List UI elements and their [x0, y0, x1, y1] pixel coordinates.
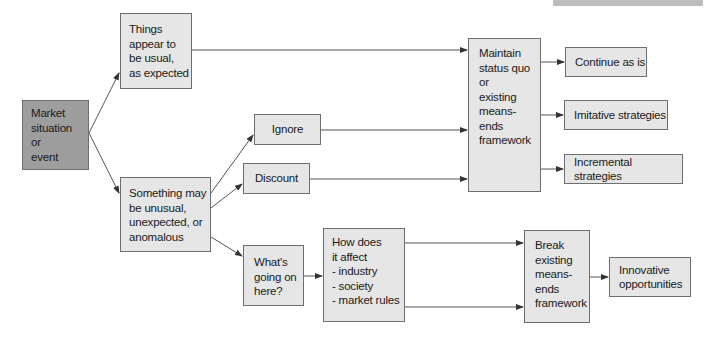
node-label: Break existing means- ends framework — [535, 238, 589, 311]
node-imitative-strategies: Imitative strategies — [564, 100, 668, 130]
node-maintain-status-quo: Maintain status quo or existing means-en… — [468, 38, 541, 192]
node-incremental-strategies: Incremental strategies — [564, 154, 683, 184]
node-label: Incremental strategies — [574, 155, 682, 184]
node-innovative-opportunities: Innovative opportunities — [609, 257, 691, 297]
node-label: Ignore — [272, 122, 303, 137]
node-label: Continue as is — [575, 55, 645, 70]
node-continue-as-is: Continue as is — [565, 47, 647, 77]
node-market-situation: Market situation or event — [22, 100, 89, 170]
edge-market-unusual — [89, 133, 119, 193]
edge-unusual-discount — [211, 184, 242, 208]
node-break-framework: Break existing means- ends framework — [524, 230, 590, 323]
node-label: Things appear to be usual, as expected — [129, 22, 191, 80]
node-things-usual: Things appear to be usual, as expected — [120, 13, 192, 89]
node-label: What's going on here? — [254, 255, 303, 299]
node-label: How does it affect - industry - society … — [332, 235, 404, 308]
edge-market-usual — [89, 73, 119, 133]
node-label: Innovative opportunities — [619, 263, 682, 292]
node-label: Market situation or event — [31, 106, 88, 164]
node-label: Something may be unusual, unexpected, or… — [129, 186, 210, 244]
node-discount: Discount — [243, 163, 310, 194]
node-label: Imitative strategies — [574, 108, 666, 123]
edge-unusual-whats — [211, 237, 242, 256]
node-how-does-it-affect: How does it affect - industry - society … — [323, 228, 405, 322]
node-something-unusual: Something may be unusual, unexpected, or… — [120, 177, 211, 252]
node-label: Discount — [255, 171, 298, 186]
node-ignore: Ignore — [254, 114, 321, 145]
node-whats-going-on: What's going on here? — [243, 245, 304, 306]
node-label: Maintain status quo or existing means-en… — [479, 46, 540, 148]
